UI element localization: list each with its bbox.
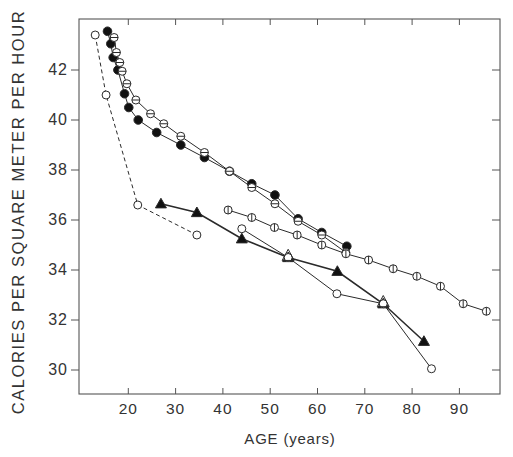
series-4 — [155, 198, 429, 345]
series-2 — [110, 34, 350, 257]
filled-circle-marker — [124, 103, 133, 112]
filled-circle-marker — [177, 141, 186, 150]
open-circle-marker — [91, 31, 99, 39]
filled-circle-marker — [134, 116, 143, 125]
plot-canvas — [0, 0, 513, 457]
open-circle-marker — [333, 290, 341, 298]
series-line — [161, 204, 424, 342]
x-tick-label: 80 — [402, 400, 421, 418]
filled-circle-marker — [103, 27, 112, 36]
y-tick-label: 36 — [48, 211, 68, 229]
y-tick-label: 34 — [48, 261, 68, 279]
open-circle-marker — [102, 91, 110, 99]
x-tick-label: 60 — [308, 400, 327, 418]
series-5 — [238, 225, 436, 373]
x-tick-label: 40 — [213, 400, 232, 418]
open-circle-marker — [427, 365, 435, 373]
y-axis-label: CALORIES PER SQUARE METER PER HOUR — [9, 10, 28, 415]
series-line — [114, 38, 346, 253]
y-tick-label: 42 — [48, 61, 68, 79]
x-tick-label: 30 — [166, 400, 185, 418]
series-line — [228, 210, 486, 311]
open-circle-marker — [193, 231, 201, 239]
x-tick-label: 50 — [261, 400, 280, 418]
open-circle-marker — [238, 225, 246, 233]
y-tick-label: 40 — [48, 111, 68, 129]
x-tick-label: 70 — [355, 400, 374, 418]
filled-circle-marker — [271, 191, 280, 200]
series-3 — [224, 206, 490, 315]
filled-circle-marker — [152, 128, 161, 137]
series-1 — [103, 27, 351, 251]
filled-triangle-marker — [236, 233, 247, 243]
x-tick-label: 90 — [450, 400, 469, 418]
open-circle-marker — [134, 201, 142, 209]
x-axis-label: AGE (years) — [244, 430, 335, 447]
y-tick-label: 30 — [48, 361, 68, 379]
y-tick-label: 38 — [48, 161, 68, 179]
y-tick-label: 32 — [48, 311, 68, 329]
x-tick-label: 20 — [119, 400, 138, 418]
filled-circle-marker — [120, 89, 129, 98]
plot-border — [79, 19, 500, 394]
data-series-layer — [91, 27, 490, 373]
filled-triangle-marker — [155, 198, 166, 208]
